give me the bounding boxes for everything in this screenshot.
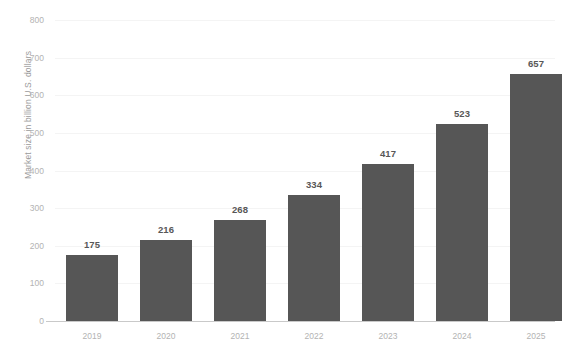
x-axis-tick-label: 2024: [436, 331, 488, 341]
y-axis-tick-label: 200: [30, 241, 44, 251]
x-axis-tick-label: 2019: [66, 331, 118, 341]
y-axis-tick-label: 600: [30, 90, 44, 100]
bar[interactable]: [436, 124, 488, 321]
x-axis-tick-label: 2025: [510, 331, 562, 341]
x-axis-tick-label: 2023: [362, 331, 414, 341]
bar-value-label: 268: [214, 204, 266, 215]
y-axis-tick-label: 100: [30, 278, 44, 288]
bar-group[interactable]: 2162020: [140, 20, 192, 321]
bar[interactable]: [140, 240, 192, 321]
bar-value-label: 523: [436, 108, 488, 119]
bar-chart: Market size in billion U.S. dollars 0100…: [0, 0, 574, 351]
bar[interactable]: [214, 220, 266, 321]
y-axis-tick-label: 300: [30, 203, 44, 213]
bar-value-label: 657: [510, 58, 562, 69]
bar-group[interactable]: 3342022: [288, 20, 340, 321]
y-axis-tick-label: 500: [30, 128, 44, 138]
bar-value-label: 216: [140, 224, 192, 235]
bar-group[interactable]: 2682021: [214, 20, 266, 321]
bar-group[interactable]: 6572025: [510, 20, 562, 321]
bar-value-label: 334: [288, 179, 340, 190]
bar-group[interactable]: 4172023: [362, 20, 414, 321]
bar-value-label: 175: [66, 239, 118, 250]
bar[interactable]: [66, 255, 118, 321]
x-axis-tick-label: 2022: [288, 331, 340, 341]
y-axis-tick-label: 0: [39, 316, 44, 326]
y-axis-tick-label: 700: [30, 53, 44, 63]
bar-series: 1752019216202026820213342022417202352320…: [55, 20, 555, 321]
bar-value-label: 417: [362, 148, 414, 159]
x-axis-tick-label: 2021: [214, 331, 266, 341]
y-axis-tick-label: 800: [30, 15, 44, 25]
plot-area: 0100200300400500600700800 17520192162020…: [55, 20, 555, 321]
bar[interactable]: [362, 164, 414, 321]
bar-group[interactable]: 5232024: [436, 20, 488, 321]
y-axis-tick-label: 400: [30, 166, 44, 176]
bar[interactable]: [510, 74, 562, 321]
x-axis-tick-label: 2020: [140, 331, 192, 341]
bar[interactable]: [288, 195, 340, 321]
bar-group[interactable]: 1752019: [66, 20, 118, 321]
